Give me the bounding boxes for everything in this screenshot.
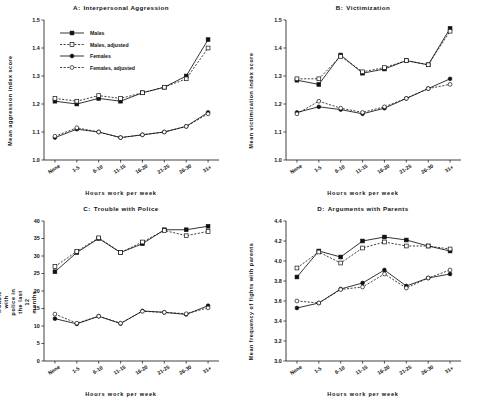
svg-text:6-10: 6-10 xyxy=(92,163,104,174)
svg-text:40: 40 xyxy=(34,218,40,224)
svg-text:0: 0 xyxy=(37,358,40,364)
svg-text:21-25: 21-25 xyxy=(398,163,413,175)
svg-text:1-5: 1-5 xyxy=(71,164,81,173)
svg-text:4.0: 4.0 xyxy=(274,258,282,264)
svg-text:3.0: 3.0 xyxy=(274,358,282,364)
svg-text:21-25: 21-25 xyxy=(156,364,171,376)
svg-text:16-20: 16-20 xyxy=(134,364,149,376)
svg-text:Females, adjusted: Females, adjusted xyxy=(90,65,135,71)
panel-a-title-text: Interpersonal Aggression xyxy=(83,4,169,11)
svg-text:1.2: 1.2 xyxy=(274,101,282,107)
svg-text:16-20: 16-20 xyxy=(134,163,149,175)
svg-text:11-15: 11-15 xyxy=(354,163,368,175)
series-males xyxy=(53,38,210,106)
panel-b-title-letter: B: xyxy=(336,4,343,11)
svg-text:35: 35 xyxy=(34,235,40,241)
panel-c-y-axis-label: Percent reporting trouble with police in… xyxy=(3,201,17,402)
svg-text:30: 30 xyxy=(34,253,40,259)
svg-text:1.1: 1.1 xyxy=(32,129,40,135)
svg-text:1.3: 1.3 xyxy=(274,73,282,79)
panel-d-arguments-with-parents: D:Arguments with Parents Mean frequency … xyxy=(242,201,484,402)
svg-text:31+: 31+ xyxy=(444,365,455,375)
svg-text:3.2: 3.2 xyxy=(274,338,282,344)
svg-text:None: None xyxy=(289,163,303,175)
svg-text:25: 25 xyxy=(34,270,40,276)
svg-text:16-20: 16-20 xyxy=(376,364,391,376)
svg-text:6-10: 6-10 xyxy=(92,364,104,375)
panel-a-title-letter: A: xyxy=(73,4,80,11)
svg-text:1-5: 1-5 xyxy=(71,365,81,374)
svg-text:4.4: 4.4 xyxy=(274,218,282,224)
svg-text:Females: Females xyxy=(90,53,111,59)
svg-text:15: 15 xyxy=(34,305,40,311)
panel-d-y-axis-label: Mean frequency of fights with parents xyxy=(245,201,259,402)
series-males xyxy=(53,224,210,273)
svg-text:Males: Males xyxy=(90,30,105,36)
svg-text:1.5: 1.5 xyxy=(274,17,282,23)
svg-text:10: 10 xyxy=(34,323,40,329)
panel-a-plot-area: 1.01.11.21.31.41.5None1-56-1011-1516-202… xyxy=(44,20,231,194)
svg-text:31+: 31+ xyxy=(202,365,213,375)
svg-text:1.1: 1.1 xyxy=(274,129,282,135)
svg-text:None: None xyxy=(47,163,61,175)
panel-a-y-axis-label: Mean aggression index score xyxy=(3,0,17,201)
svg-text:20: 20 xyxy=(34,288,40,294)
panel-c-trouble-with-police: C:Trouble with Police Percent reporting … xyxy=(0,201,242,402)
panel-c-plot-area: 0510152025303540None1-56-1011-1516-2021-… xyxy=(44,221,231,395)
svg-text:5: 5 xyxy=(37,340,40,346)
svg-text:6-10: 6-10 xyxy=(334,364,346,375)
panel-c-title: C:Trouble with Police xyxy=(0,205,242,212)
svg-text:11-15: 11-15 xyxy=(112,163,126,175)
svg-text:1.2: 1.2 xyxy=(32,101,40,107)
series-females-adjusted xyxy=(53,306,210,325)
panel-b-title: B:Victimization xyxy=(242,4,484,11)
svg-text:None: None xyxy=(289,364,303,376)
svg-text:21-25: 21-25 xyxy=(156,163,171,175)
svg-text:1.0: 1.0 xyxy=(32,157,40,163)
legend: MalesMales, adjustedFemalesFemales, adju… xyxy=(60,30,135,71)
svg-text:1-5: 1-5 xyxy=(313,164,323,173)
panel-b-x-axis-label: Hours work per week xyxy=(242,190,484,196)
panel-d-title-text: Arguments with Parents xyxy=(328,205,409,212)
series-males xyxy=(295,235,452,279)
svg-text:26-30: 26-30 xyxy=(178,364,193,376)
svg-text:Males, adjusted: Males, adjusted xyxy=(90,42,129,48)
panel-d-title: D:Arguments with Parents xyxy=(242,205,484,212)
series-females-adjusted xyxy=(295,268,452,305)
svg-text:6-10: 6-10 xyxy=(334,163,346,174)
panel-c-title-text: Trouble with Police xyxy=(94,205,159,212)
svg-text:None: None xyxy=(47,364,61,376)
panel-b-victimization: B:Victimization Mean victimization index… xyxy=(242,0,484,201)
series-males-adjusted xyxy=(295,240,452,270)
svg-text:21-25: 21-25 xyxy=(398,364,413,376)
panel-c-x-axis-label: Hours work per week xyxy=(0,391,242,397)
svg-text:1-5: 1-5 xyxy=(313,365,323,374)
panel-b-plot-area: 1.01.11.21.31.41.5None1-56-1011-1516-202… xyxy=(286,20,473,194)
svg-text:26-30: 26-30 xyxy=(420,163,435,175)
svg-text:3.6: 3.6 xyxy=(274,298,282,304)
svg-text:3.8: 3.8 xyxy=(274,278,282,284)
svg-text:1.3: 1.3 xyxy=(32,73,40,79)
svg-text:3.4: 3.4 xyxy=(274,318,282,324)
series-males-adjusted xyxy=(295,29,452,80)
panel-d-x-axis-label: Hours work per week xyxy=(242,391,484,397)
panel-c-title-letter: C: xyxy=(83,205,90,212)
panel-a-x-axis-label: Hours work per week xyxy=(0,190,242,196)
svg-text:31+: 31+ xyxy=(202,164,213,174)
svg-text:26-30: 26-30 xyxy=(178,163,193,175)
svg-text:4.2: 4.2 xyxy=(274,238,282,244)
panel-d-title-letter: D: xyxy=(317,205,324,212)
svg-text:1.4: 1.4 xyxy=(32,45,40,51)
figure-four-panel-line-charts: A:Interpersonal Aggression Mean aggressi… xyxy=(0,0,484,402)
series-females-adjusted xyxy=(53,112,210,140)
panel-b-y-axis-label: Mean victimization index score xyxy=(245,0,259,201)
panel-d-plot-area: 3.03.23.43.63.84.04.24.4None1-56-1011-15… xyxy=(286,221,473,395)
svg-text:31+: 31+ xyxy=(444,164,455,174)
svg-text:1.5: 1.5 xyxy=(32,17,40,23)
svg-text:1.0: 1.0 xyxy=(274,157,282,163)
svg-text:26-30: 26-30 xyxy=(420,364,435,376)
svg-text:16-20: 16-20 xyxy=(376,163,391,175)
svg-text:11-15: 11-15 xyxy=(354,364,368,376)
svg-text:1.4: 1.4 xyxy=(274,45,282,51)
panel-a-title: A:Interpersonal Aggression xyxy=(0,4,242,11)
